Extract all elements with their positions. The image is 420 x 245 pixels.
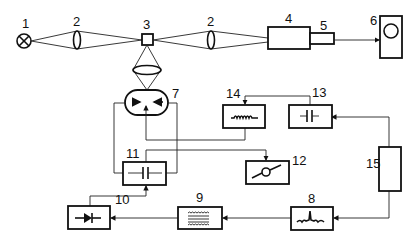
lens-2-right — [208, 31, 215, 49]
label-13: 13 — [312, 85, 326, 100]
label-3: 3 — [143, 17, 150, 32]
label-1: 1 — [22, 16, 29, 31]
block-11 — [123, 162, 166, 185]
block-5 — [310, 33, 334, 44]
label-8: 8 — [308, 191, 315, 206]
block-4 — [268, 27, 310, 49]
block-8 — [291, 207, 333, 230]
block-13 — [289, 105, 332, 128]
block-15 — [379, 147, 401, 191]
condenser-lens — [133, 66, 161, 75]
label-14: 14 — [226, 86, 240, 101]
block-12 — [246, 161, 289, 184]
label-7: 7 — [172, 86, 179, 101]
light-beam-right — [153, 31, 268, 49]
lens-2-left — [74, 31, 81, 49]
schematic-diagram: 1 2 3 2 4 5 6 7 — [0, 0, 420, 245]
light-beam-left — [31, 31, 142, 49]
label-4: 4 — [285, 11, 292, 26]
label-12: 12 — [292, 153, 306, 168]
label-10: 10 — [115, 192, 129, 207]
label-11: 11 — [126, 146, 140, 161]
label-2-right: 2 — [207, 14, 214, 29]
sample-cell-3 — [142, 34, 153, 45]
lamp — [17, 34, 31, 48]
label-2-left: 2 — [73, 14, 80, 29]
label-15: 15 — [366, 156, 380, 171]
label-9: 9 — [196, 190, 203, 205]
label-6: 6 — [370, 13, 377, 28]
display-6 — [380, 16, 402, 58]
label-5: 5 — [320, 18, 327, 33]
